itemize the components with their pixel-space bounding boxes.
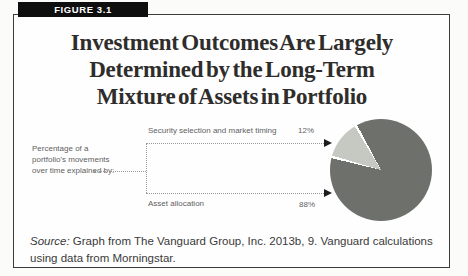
source-text: Graph from The Vanguard Group, Inc. 2013… [30,235,433,264]
connector-line-bracket [146,143,147,193]
figure-title-line-3: Mixture of Assets in Portfolio [20,83,444,110]
figure-title: Investment Outcomes Are Largely Determin… [20,29,444,110]
scanned-figure-page: FIGURE 3.1 Investment Outcomes Are Large… [0,0,468,276]
pie-explainer-line-1: Percentage of a [32,143,157,154]
connector-line-bottom [146,193,324,194]
pie-chart [330,119,432,221]
slice-value-security-selection: 12% [298,126,314,135]
slice-value-asset-allocation: 88% [299,200,315,209]
slice-label-asset-allocation: Asset allocation [148,199,204,208]
arrow-right-icon [324,189,332,197]
figure-title-line-2: Determined by the Long-Term [20,56,444,83]
slice-label-security-selection: Security selection and market timing [148,126,277,135]
connector-line-mid [94,171,146,172]
connector-line-top [146,143,324,144]
figure-title-line-1: Investment Outcomes Are Largely [20,29,444,56]
pie-explainer-line-2: portfolio's movements [32,154,157,165]
figure-number-label: FIGURE 3.1 [54,4,112,15]
figure-number-bar: FIGURE 3.1 [18,2,148,17]
arrow-right-icon [324,139,332,147]
source-prefix: Source: [30,235,70,247]
source-note: Source: Graph from The Vanguard Group, I… [30,233,434,267]
